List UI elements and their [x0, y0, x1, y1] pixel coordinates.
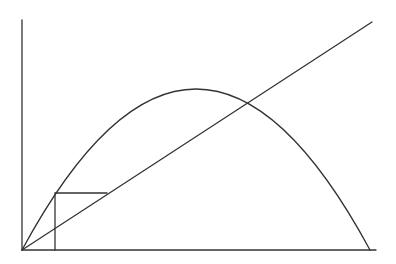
parabola-curve [22, 89, 370, 250]
cobweb-diagram [0, 0, 396, 264]
cobweb-step [55, 193, 107, 250]
identity-line [22, 22, 372, 250]
